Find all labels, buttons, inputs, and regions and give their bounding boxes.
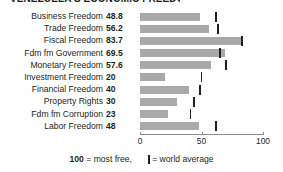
row-plot-area xyxy=(140,72,263,84)
chart-title-clipped: VENEZUELA'S ECONOMIC FREEDOM SCORES xyxy=(10,0,180,4)
row-value: 20 xyxy=(106,72,134,83)
row-plot-area xyxy=(140,60,263,72)
score-bar xyxy=(140,37,243,45)
row-label: Business Freedom xyxy=(31,11,103,22)
x-axis-tick xyxy=(140,132,141,135)
world-average-tick xyxy=(199,85,201,95)
score-bar xyxy=(140,25,209,33)
score-bar xyxy=(140,86,189,94)
chart-row: Fiscal Freedom83.7 xyxy=(0,35,283,47)
world-average-tick xyxy=(201,72,203,82)
economic-freedom-bar-chart: VENEZUELA'S ECONOMIC FREEDOM SCORES Busi… xyxy=(0,0,283,172)
chart-row: Investment Freedom20 xyxy=(0,72,283,84)
x-axis-tick-label: 50 xyxy=(197,136,206,146)
row-plot-area xyxy=(140,109,263,121)
row-plot-area xyxy=(140,35,263,47)
chart-legend: 100 = most free, = world average xyxy=(0,152,283,166)
world-average-tick xyxy=(219,48,221,58)
row-label: Investment Freedom xyxy=(24,72,103,83)
row-plot-area xyxy=(140,84,263,96)
row-value: 57.6 xyxy=(106,60,134,71)
row-value: 23 xyxy=(106,109,134,120)
chart-row: Property Rights30 xyxy=(0,96,283,108)
row-value: 48.8 xyxy=(106,11,134,22)
legend-world-average: = world average xyxy=(148,154,214,164)
world-average-tick xyxy=(225,60,227,70)
row-label: Fiscal Freedom xyxy=(44,35,103,46)
row-label: Labor Freedom xyxy=(44,121,103,132)
score-bar xyxy=(140,61,211,69)
x-axis-tick xyxy=(202,132,203,135)
chart-rows: Business Freedom48.8Trade Freedom56.2Fis… xyxy=(0,11,283,133)
row-value: 48 xyxy=(106,121,134,132)
score-bar xyxy=(140,49,225,57)
x-axis-tick-label: 100 xyxy=(256,136,270,146)
x-axis-tick xyxy=(263,132,264,135)
row-value: 40 xyxy=(106,84,134,95)
score-bar xyxy=(140,98,177,106)
world-average-tick xyxy=(241,36,243,46)
world-average-tick-icon xyxy=(148,155,150,164)
row-plot-area xyxy=(140,96,263,108)
row-value: 69.5 xyxy=(106,48,134,59)
score-bar xyxy=(140,110,168,118)
row-label: Property Rights xyxy=(44,96,103,107)
world-average-tick xyxy=(217,24,219,34)
world-average-tick xyxy=(215,12,217,22)
chart-row: Monetary Freedom57.6 xyxy=(0,60,283,72)
row-label: Trade Freedom xyxy=(44,23,103,34)
row-plot-area xyxy=(140,11,263,23)
row-value: 56.2 xyxy=(106,23,134,34)
row-plot-area xyxy=(140,48,263,60)
legend-scale-label: = most free, xyxy=(86,154,132,164)
chart-title-text: VENEZUELA'S ECONOMIC FREEDOM SCORES xyxy=(10,0,180,4)
chart-row: Trade Freedom56.2 xyxy=(0,23,283,35)
chart-row: Fdm fm Government69.5 xyxy=(0,48,283,60)
world-average-tick xyxy=(215,121,217,131)
x-axis-tick-label: 0 xyxy=(138,136,143,146)
row-label: Monetary Freedom xyxy=(30,60,103,71)
world-average-tick xyxy=(193,97,195,107)
row-plot-area xyxy=(140,23,263,35)
legend-world-average-label: = world average xyxy=(152,154,213,164)
row-value: 30 xyxy=(106,96,134,107)
row-label: Fdm fm Government xyxy=(24,48,103,59)
score-bar xyxy=(140,73,165,81)
row-value: 83.7 xyxy=(106,35,134,46)
score-bar xyxy=(140,122,199,130)
x-axis: 050100 xyxy=(140,134,263,150)
chart-row: Labor Freedom48 xyxy=(0,121,283,133)
chart-row: Fdm fm Corruption23 xyxy=(0,109,283,121)
row-label: Financial Freedom xyxy=(32,84,103,95)
chart-row: Financial Freedom40 xyxy=(0,84,283,96)
score-bar xyxy=(140,13,200,21)
legend-scale-value: 100 xyxy=(69,154,83,164)
chart-row: Business Freedom48.8 xyxy=(0,11,283,23)
legend-scale: 100 = most free, xyxy=(69,154,131,164)
world-average-tick xyxy=(190,109,192,119)
row-label: Fdm fm Corruption xyxy=(31,109,103,120)
